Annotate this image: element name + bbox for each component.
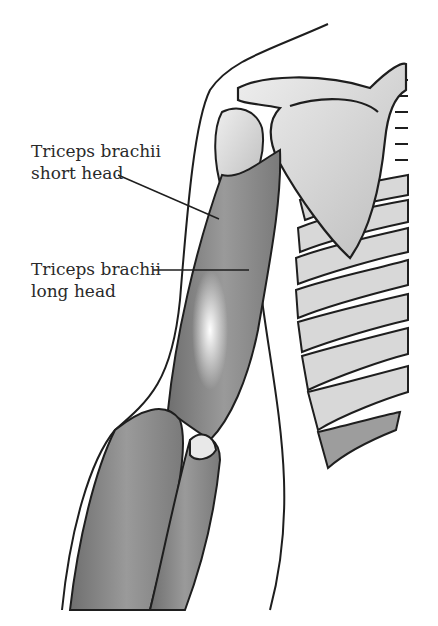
label-line: Triceps brachii: [31, 258, 161, 280]
label-line: long head: [31, 280, 161, 302]
forearm: [70, 409, 220, 610]
label-triceps-long-head: Triceps brachii long head: [31, 258, 161, 302]
triceps-muscle: [168, 150, 280, 440]
label-line: short head: [31, 162, 161, 184]
label-triceps-short-head: Triceps brachii short head: [31, 140, 161, 184]
label-line: Triceps brachii: [31, 140, 161, 162]
anatomy-figure: [0, 0, 438, 626]
